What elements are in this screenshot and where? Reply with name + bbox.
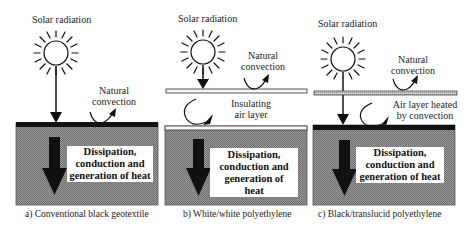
air-convection-arrow (360, 103, 382, 126)
caption-a: a) Conventional black geotextile (25, 209, 149, 219)
caption-b: b) White/white polyethylene (183, 209, 292, 219)
heat-process-label-a: Dissipation, conduction and generation o… (67, 146, 153, 182)
heat-process-label-b: Dissipation, conduction and generation o… (210, 148, 298, 197)
black-film-ground (313, 125, 455, 130)
natural-convection-label-a: Natural convection (92, 85, 136, 107)
natural-convection-label-b: Natural convection (240, 50, 286, 72)
heat-process-label-c: Dissipation, conduction and generation o… (356, 147, 444, 183)
air-convection-arrow (184, 99, 206, 124)
caption-c: c) Black/translucid polyethylene (318, 209, 441, 219)
solar-radiation-label-a: Solar radiation (32, 14, 91, 25)
white-film-top (166, 89, 307, 93)
insulating-air-label: Insulating air layer (228, 98, 274, 120)
solar-radiation-label-b: Solar radiation (178, 13, 237, 24)
white-film-ground (165, 126, 307, 130)
black-geotextile (16, 122, 158, 127)
natural-convection-label-c: Natural convection (390, 54, 436, 76)
solar-radiation-label-c: Solar radiation (318, 18, 377, 29)
translucent-film-top (314, 91, 457, 95)
heated-air-label: Air layer heated by convection (392, 99, 458, 121)
